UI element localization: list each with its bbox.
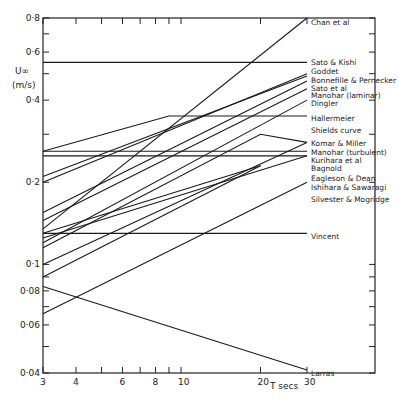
x-tick-label: 10 xyxy=(178,377,190,387)
series-label: Bagnold xyxy=(311,164,342,173)
series-line xyxy=(43,166,261,234)
series-label: Chan et al xyxy=(311,18,349,27)
series-line xyxy=(43,286,307,370)
chart-plot: 34681020300·040·060·080·10·20·40·60·8 Ch… xyxy=(0,0,398,401)
x-tick-label: 20 xyxy=(258,377,270,387)
series-line xyxy=(43,142,307,264)
series-label: Komar & Miller xyxy=(311,139,367,148)
series-label: Eagleson & Dean xyxy=(311,174,376,183)
y-tick-label: 0·6 xyxy=(26,47,41,57)
x-axis-label: T secs xyxy=(269,381,299,391)
y-tick-label: 0·1 xyxy=(26,259,40,269)
y-axis-label-bottom: (m/s) xyxy=(12,80,36,90)
series-label: Vincent xyxy=(311,232,339,241)
series-line xyxy=(43,74,307,183)
series-label: Larras xyxy=(311,369,334,378)
y-tick-label: 0·04 xyxy=(20,368,40,378)
x-tick-label: 3 xyxy=(40,377,46,387)
x-tick-label: 8 xyxy=(152,377,158,387)
series-line xyxy=(43,89,307,221)
series-label: Sato & Kishi xyxy=(311,58,356,67)
series-label: Ishihara & Sawaragi xyxy=(311,183,386,192)
x-tick-label: 6 xyxy=(119,377,125,387)
series-labels: Chan et alSato & KishiGoddetBonnefille &… xyxy=(311,18,397,378)
series-label: Shields curve xyxy=(311,126,362,135)
series-label: Goddet xyxy=(311,67,339,76)
x-tick-label: 4 xyxy=(73,377,79,387)
series-label: Silvester & Mogridge xyxy=(311,195,390,204)
x-tick-label: 30 xyxy=(304,377,316,387)
y-tick-label: 0·2 xyxy=(26,177,40,187)
y-axis-label-top: U∞ xyxy=(15,66,29,76)
y-tick-label: 0·8 xyxy=(26,13,41,23)
y-tick-label: 0·06 xyxy=(20,320,40,330)
y-tick-label: 0·08 xyxy=(20,286,40,296)
series-label: Hallermeier xyxy=(311,114,356,123)
series-line xyxy=(43,182,307,313)
series-lines xyxy=(43,18,307,370)
y-tick-label: 0·4 xyxy=(26,95,41,105)
series-line xyxy=(43,76,307,176)
series-label: Dingler xyxy=(311,99,339,108)
